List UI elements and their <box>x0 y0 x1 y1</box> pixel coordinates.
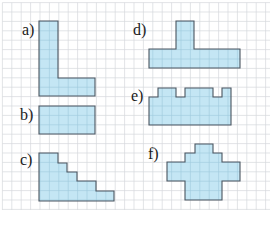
label-f: f) <box>148 146 159 162</box>
shape-b <box>39 106 95 134</box>
shape-d <box>149 21 240 68</box>
shapes-layer <box>39 21 240 201</box>
shape-c <box>39 153 114 201</box>
label-a: a) <box>22 22 34 38</box>
label-d: d) <box>133 22 146 38</box>
shape-a <box>39 21 95 96</box>
label-b: b) <box>20 107 33 123</box>
label-c: c) <box>20 152 32 168</box>
label-e: e) <box>131 88 143 104</box>
shape-f <box>167 144 240 200</box>
